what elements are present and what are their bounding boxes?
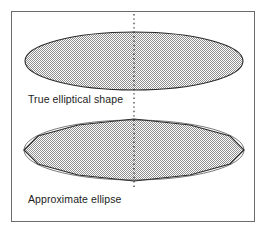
caption-true-elliptical-shape: True elliptical shape [28,93,123,105]
caption-approximate-ellipse: Approximate ellipse [28,193,122,205]
figure-root: True elliptical shape Approximate ellips… [0,0,267,227]
